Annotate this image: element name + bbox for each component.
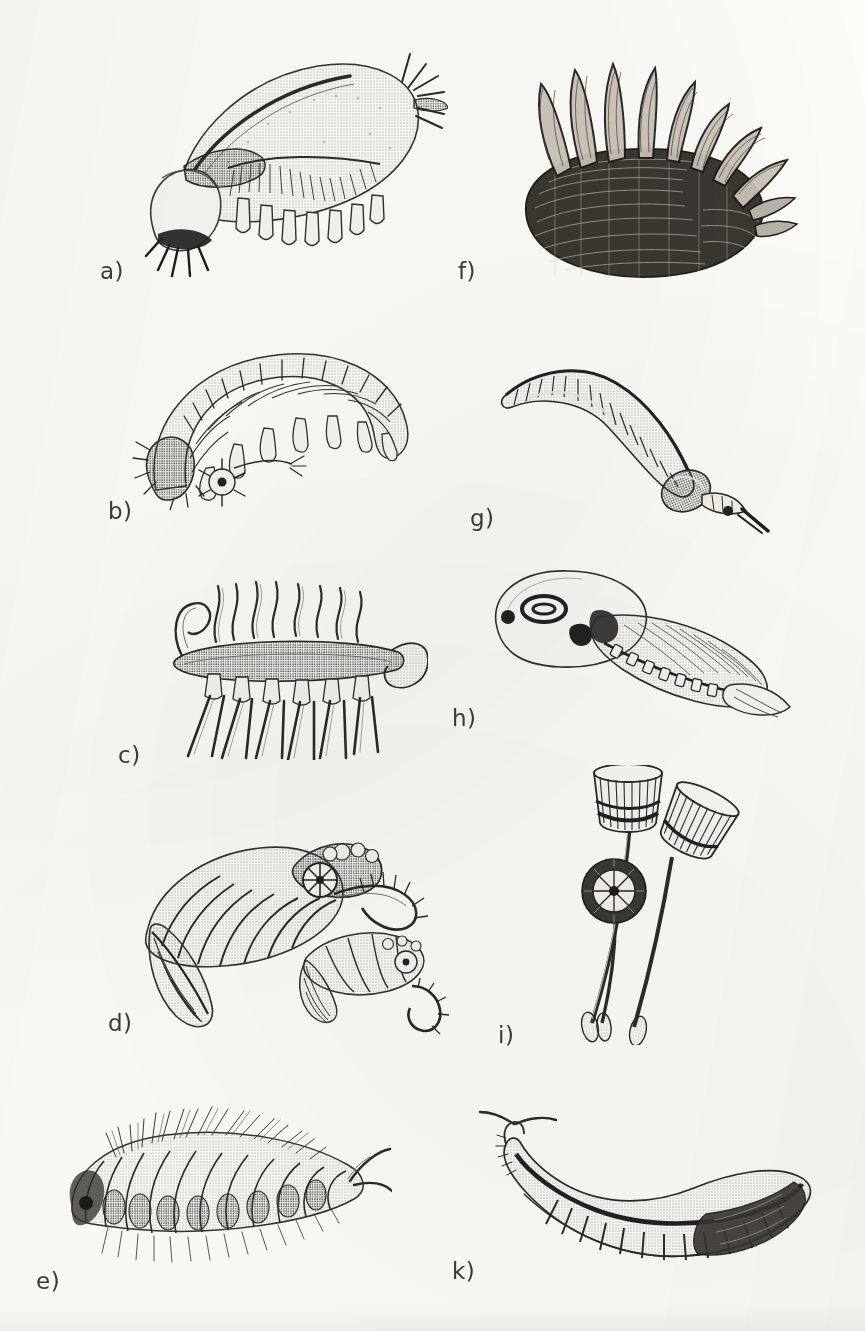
figure-g-illustration xyxy=(490,345,780,535)
figure-label-c: c) xyxy=(118,742,141,768)
figure-label-h: h) xyxy=(452,705,477,731)
figure-label-a: a) xyxy=(100,258,124,284)
figure-f-illustration xyxy=(505,50,805,290)
figure-label-d: d) xyxy=(108,1010,133,1036)
figure-h-illustration xyxy=(478,565,798,725)
figure-label-b: b) xyxy=(108,498,133,524)
figure-c-illustration xyxy=(148,560,428,760)
figure-label-g: g) xyxy=(470,505,495,531)
page-edge-shadow xyxy=(0,1305,865,1331)
figure-label-f: f) xyxy=(458,258,476,284)
figure-d-illustration xyxy=(120,810,460,1040)
figure-label-e: e) xyxy=(36,1268,60,1294)
figure-i-illustration xyxy=(552,765,742,1045)
figure-e-illustration xyxy=(62,1095,392,1265)
figure-label-k: k) xyxy=(452,1258,475,1284)
figure-a-illustration xyxy=(118,38,448,278)
plate-canvas: a) xyxy=(0,0,865,1331)
figure-label-i: i) xyxy=(498,1022,514,1048)
figure-b-illustration xyxy=(130,340,430,510)
figure-k-illustration xyxy=(462,1110,822,1290)
